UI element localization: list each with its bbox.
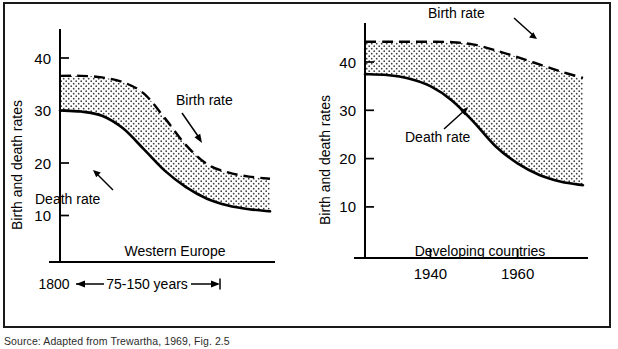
y-tick-label: 30 xyxy=(34,102,51,119)
y-axis-title: Birth and death rates xyxy=(9,100,25,230)
span-arrow-left-icon xyxy=(76,280,104,287)
birth-rate-label: Birth rate xyxy=(176,92,233,108)
panel-title: Western Europe xyxy=(125,243,226,259)
span-arrow-right-icon xyxy=(191,279,220,290)
y-tick-label: 40 xyxy=(34,50,51,67)
y-tick-label: 10 xyxy=(34,207,51,224)
source-caption: Source: Adapted from Trewartha, 1969, Fi… xyxy=(4,335,230,347)
panel-title: Developing countries xyxy=(415,243,546,259)
birth-rate-leader-line xyxy=(514,18,534,36)
x-axis-span-text: 75-150 years xyxy=(106,276,188,292)
y-tick-label: 30 xyxy=(339,102,356,119)
y-tick-label: 10 xyxy=(339,198,356,215)
death-rate-annotation: Death rate xyxy=(35,170,113,207)
death-rate-annotation: Death rate xyxy=(405,107,471,145)
birth-rate-annotation: Birth rate xyxy=(428,5,537,39)
birth-rate-leader-line xyxy=(182,113,200,139)
x-tick-label: 1960 xyxy=(501,265,534,282)
death-rate-leader-line xyxy=(96,173,113,190)
y-axis-title: Birth and death rates xyxy=(317,95,333,225)
x-tick-label: 1940 xyxy=(414,265,447,282)
birth-rate-annotation: Birth rate xyxy=(176,92,233,143)
death-rate-label: Death rate xyxy=(405,129,471,145)
birth-rate-arrow-icon xyxy=(195,134,203,143)
y-tick-group: 10203040 xyxy=(339,54,374,216)
birth-rate-label: Birth rate xyxy=(428,5,485,21)
chart-panel-western-europe: 10203040 Birth and death rates Western E… xyxy=(0,0,310,330)
plot-area-developing-countries xyxy=(365,42,583,185)
y-tick-label: 20 xyxy=(339,150,356,167)
x-axis-start-year: 1800 xyxy=(38,276,69,292)
demographic-transition-figure: 10203040 Birth and death rates Western E… xyxy=(0,0,618,349)
y-tick-label: 40 xyxy=(339,54,356,71)
y-tick-label: 20 xyxy=(34,155,51,172)
death-rate-leader-line xyxy=(444,110,465,129)
death-rate-label: Death rate xyxy=(35,191,101,207)
x-axis-span-note: 1800 75-150 years xyxy=(38,276,220,292)
birth-death-gap-area xyxy=(365,42,583,185)
chart-panel-developing-countries: 10203040 19401960 Birth and death rates … xyxy=(308,0,618,330)
